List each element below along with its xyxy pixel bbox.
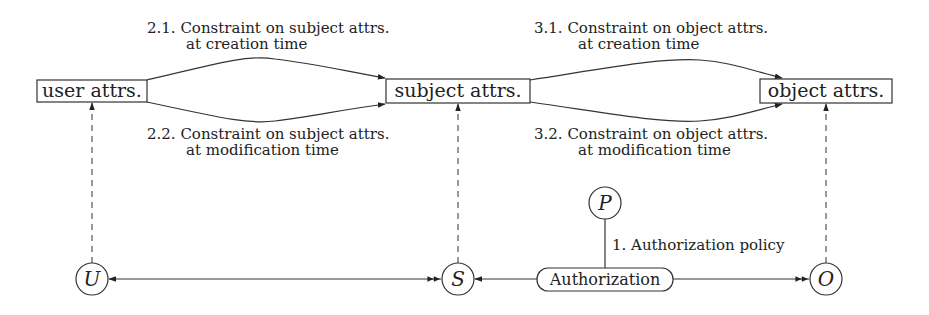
object-attrs-label: object attrs. — [768, 79, 885, 101]
svg-text:P: P — [597, 191, 612, 215]
constraint-3-2-arrow — [530, 102, 782, 121]
authorization-box: Authorization — [537, 268, 673, 291]
user-attrs-box: user attrs. — [37, 79, 147, 102]
constraint-3-1-arrow — [530, 60, 782, 80]
constraint-2-1-label: 2.1. Constraint on subject attrs. at cre… — [147, 19, 389, 53]
constraint-3-2-label: 3.2. Constraint on object attrs. at modi… — [534, 125, 768, 159]
svg-text:S: S — [451, 267, 465, 291]
user-node: U — [76, 263, 108, 295]
svg-text:at creation time: at creation time — [578, 35, 699, 53]
constraint-2-2-label: 2.2. Constraint on subject attrs. at mod… — [147, 125, 389, 159]
svg-text:at modification time: at modification time — [578, 141, 731, 159]
constraint-2-2-arrow — [147, 102, 385, 122]
policy-node: P — [589, 187, 621, 219]
svg-text:at modification time: at modification time — [186, 141, 339, 159]
user-attrs-label: user attrs. — [42, 79, 142, 101]
subject-node: S — [442, 263, 474, 295]
subject-attrs-box: subject attrs. — [386, 79, 530, 103]
object-attrs-box: object attrs. — [760, 79, 892, 103]
authorization-label: Authorization — [549, 270, 660, 289]
subject-attrs-label: subject attrs. — [394, 79, 521, 101]
constraint-3-1-label: 3.1. Constraint on object attrs. at crea… — [534, 19, 768, 53]
svg-text:O: O — [818, 267, 834, 291]
svg-text:U: U — [84, 267, 102, 291]
svg-text:at creation time: at creation time — [186, 35, 307, 53]
constraint-2-1-arrow — [147, 58, 385, 80]
attribute-constraint-diagram: user attrs. subject attrs. object attrs.… — [0, 0, 929, 315]
authorization-policy-label: 1. Authorization policy — [612, 236, 785, 254]
object-node: O — [810, 263, 842, 295]
